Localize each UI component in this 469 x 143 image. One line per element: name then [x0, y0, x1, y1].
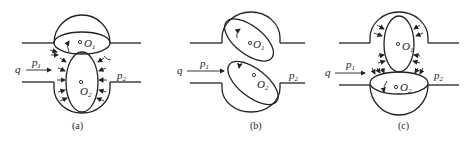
center-o1	[78, 40, 81, 43]
svg-text:p2: p2	[116, 69, 127, 83]
center-o2	[252, 73, 255, 76]
svg-text:q: q	[177, 64, 183, 76]
svg-text:p1: p1	[199, 57, 209, 71]
center-o1	[248, 41, 251, 44]
svg-text:O2: O2	[80, 85, 92, 99]
svg-text:p1: p1	[31, 56, 41, 70]
svg-text:O2: O2	[257, 78, 269, 92]
panel-c: q p1 p2 O1 O2 (c)	[325, 12, 459, 132]
caption-c: (c)	[398, 120, 409, 132]
lower-rotor-ellipse	[221, 53, 286, 112]
upper-rotor-dome	[54, 15, 110, 43]
rotation-arrow-icon	[68, 41, 70, 52]
center-o2	[394, 85, 397, 88]
caption-a: (a)	[72, 120, 83, 132]
svg-text:q: q	[15, 63, 21, 75]
svg-text:O2: O2	[400, 81, 412, 95]
rotation-arrow-icon	[237, 29, 240, 38]
panel-a: q p1 p2 O1 O2 (a)	[15, 15, 141, 132]
lower-housing	[222, 83, 280, 112]
svg-text:p2: p2	[433, 69, 444, 83]
pressure-arrows-icon	[372, 25, 423, 74]
svg-text:O1: O1	[253, 38, 264, 52]
center-o1	[396, 42, 399, 45]
svg-text:p1: p1	[345, 58, 355, 72]
svg-text:p2: p2	[288, 69, 299, 83]
panel-b: q p1 p2 O1 O2 (b)	[177, 11, 305, 132]
lower-rotor-dome	[370, 85, 428, 115]
upper-rotor-ellipse	[54, 32, 110, 54]
upper-housing	[222, 12, 280, 43]
svg-text:O1: O1	[402, 40, 413, 54]
lower-rotor-ellipse	[66, 52, 98, 112]
caption-b: (b)	[250, 120, 262, 132]
svg-text:q: q	[325, 66, 331, 78]
rotation-arrow-icon	[384, 81, 387, 92]
lower-rotor-ellipse	[370, 72, 428, 94]
svg-text:O1: O1	[84, 37, 95, 51]
gear-pump-diagram: q p1 p2 O1 O2 (a) q p1 p2 O1 O2 (b)	[0, 0, 469, 143]
center-o2	[79, 80, 82, 83]
